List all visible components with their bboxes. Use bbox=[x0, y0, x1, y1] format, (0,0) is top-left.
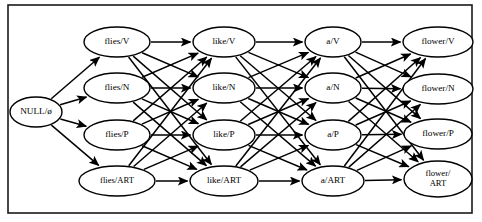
lattice-node: a/V bbox=[305, 27, 361, 57]
node-label: like/N bbox=[213, 82, 236, 92]
node-label: flower/ bbox=[426, 168, 451, 178]
lattice-node: a/N bbox=[305, 73, 361, 103]
lattice-node: like/ART bbox=[190, 166, 258, 196]
node-label: ART bbox=[430, 178, 447, 188]
lattice-node: like/P bbox=[193, 120, 255, 150]
lattice-node: flower/N bbox=[403, 74, 473, 104]
node-label: flies/N bbox=[104, 82, 129, 92]
node-label: like/ART bbox=[207, 175, 242, 185]
lattice-node: flies/P bbox=[84, 120, 150, 150]
lattice-node: flies/V bbox=[84, 27, 150, 57]
lattice-figure: NULL/øflies/Vflies/Nflies/Pflies/ARTlike… bbox=[0, 0, 482, 222]
node-label: flies/ART bbox=[100, 175, 135, 185]
node-label: a/ART bbox=[321, 175, 346, 185]
node-label: a/V bbox=[326, 36, 340, 46]
lattice-node: flies/ART bbox=[79, 166, 155, 196]
node-label: a/P bbox=[327, 129, 339, 139]
node-label: like/V bbox=[213, 36, 236, 46]
lattice-node: like/V bbox=[193, 27, 255, 57]
lattice-diagram: NULL/øflies/Vflies/Nflies/Pflies/ARTlike… bbox=[0, 0, 482, 222]
node-label: flower/P bbox=[422, 128, 454, 138]
node-label: like/P bbox=[213, 129, 234, 139]
node-label: NULL/ø bbox=[20, 106, 52, 116]
node-label: flower/N bbox=[421, 83, 455, 93]
lattice-node: like/N bbox=[193, 73, 255, 103]
lattice-node: flower/P bbox=[404, 119, 472, 149]
lattice-node: a/ART bbox=[302, 166, 364, 196]
node-label: a/N bbox=[326, 82, 340, 92]
lattice-node: NULL/ø bbox=[10, 97, 62, 127]
node-label: flies/V bbox=[104, 36, 129, 46]
node-label: flies/P bbox=[105, 129, 128, 139]
node-label: flower/V bbox=[421, 36, 455, 46]
lattice-node: flower/V bbox=[403, 27, 473, 57]
lattice-node: flower/ART bbox=[404, 161, 472, 197]
lattice-edge bbox=[365, 180, 402, 181]
lattice-node: flies/N bbox=[84, 73, 150, 103]
lattice-node: a/P bbox=[305, 120, 361, 150]
